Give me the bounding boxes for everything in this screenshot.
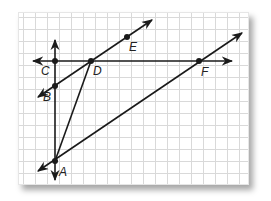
point-f: [196, 58, 202, 64]
point-b: [52, 83, 58, 89]
point-label-c: C: [41, 64, 50, 78]
point-label-e: E: [129, 40, 138, 54]
point-label-b: B: [43, 90, 51, 104]
point-a: [52, 158, 58, 164]
geometry-figure: ABCDEF: [0, 0, 271, 201]
lines-layer: [33, 20, 242, 180]
point-label-d: D: [93, 64, 102, 78]
points-layer: ABCDEF: [41, 34, 209, 179]
point-label-a: A: [58, 165, 67, 179]
diagram-canvas: ABCDEF: [0, 0, 271, 201]
segment-AD: [55, 61, 91, 161]
point-c: [52, 58, 58, 64]
line-AF: [38, 33, 242, 171]
point-label-f: F: [201, 65, 209, 79]
